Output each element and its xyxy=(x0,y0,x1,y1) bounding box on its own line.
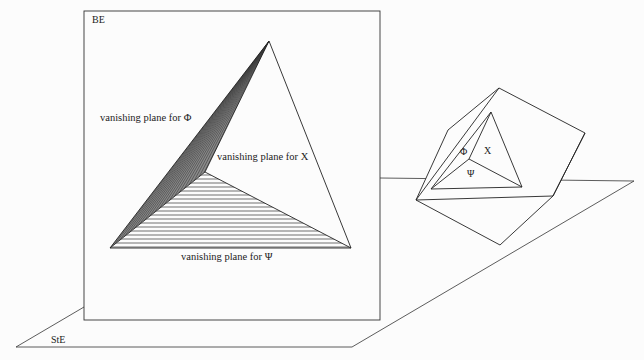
cube-psi-label: Ψ xyxy=(467,168,474,179)
psi-plane-label: vanishing plane for Ψ xyxy=(181,251,272,262)
picture-plane-label: BE xyxy=(92,14,105,25)
chi-plane-label: vanishing plane for X xyxy=(217,151,308,162)
cube-chi-label: X xyxy=(484,145,491,156)
phi-plane-label: vanishing plane for Φ xyxy=(100,112,191,123)
cube xyxy=(416,88,585,245)
diagram-canvas xyxy=(0,0,644,360)
cube-phi-label: Φ xyxy=(460,146,467,157)
picture-plane-be xyxy=(84,11,380,320)
ground-plane-label: StE xyxy=(51,334,65,345)
